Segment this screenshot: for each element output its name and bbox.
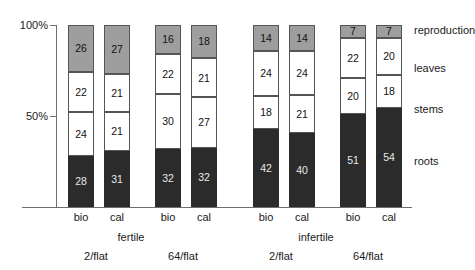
segment-leaves: 24 bbox=[289, 51, 315, 95]
x-tick-label-infertile-2flat-bio: bio bbox=[246, 211, 286, 223]
segment-leaves: 21 bbox=[104, 74, 130, 112]
segment-reproduction: 27 bbox=[104, 25, 130, 74]
x-tick-label-infertile-64flat-cal: cal bbox=[369, 211, 409, 223]
segment-stems: 21 bbox=[289, 95, 315, 134]
segment-reproduction: 18 bbox=[191, 25, 217, 58]
segment-roots: 42 bbox=[253, 129, 279, 207]
y-tick-label-100-wrap: 100% bbox=[0, 20, 48, 31]
bar-infertile-64flat-cal[interactable]: 7 20 18 54 bbox=[376, 25, 402, 207]
bar-fertile-2flat-cal[interactable]: 27 21 21 31 bbox=[104, 25, 130, 207]
y-tick-label-50-wrap: 50% bbox=[0, 111, 48, 122]
segment-leaves: 21 bbox=[191, 58, 217, 97]
x-tick-label-fertile-2flat-bio: bio bbox=[61, 211, 101, 223]
bar-infertile-2flat-cal[interactable]: 14 24 21 40 bbox=[289, 25, 315, 207]
legend-label-leaves: leaves bbox=[414, 62, 446, 74]
sub-label-infertile-64flat: 64/flat bbox=[328, 250, 408, 262]
segment-reproduction: 26 bbox=[68, 25, 94, 72]
segment-leaves: 22 bbox=[155, 54, 181, 94]
segment-reproduction: 14 bbox=[253, 25, 279, 51]
x-tick-label-fertile-64flat-cal: cal bbox=[184, 211, 224, 223]
x-axis-line bbox=[22, 207, 412, 208]
segment-roots: 40 bbox=[289, 133, 315, 207]
segment-reproduction: 14 bbox=[289, 25, 315, 51]
sub-label-infertile-2flat: 2/flat bbox=[241, 250, 321, 262]
bar-infertile-64flat-bio[interactable]: 7 22 20 51 bbox=[340, 25, 366, 207]
y-tick-label-50: 50% bbox=[2, 111, 48, 122]
y-tick-mark-50 bbox=[50, 116, 57, 117]
segment-stems: 21 bbox=[104, 112, 130, 150]
segment-stems: 24 bbox=[68, 112, 94, 156]
bar-fertile-64flat-cal[interactable]: 18 21 27 32 bbox=[191, 25, 217, 207]
segment-leaves: 22 bbox=[68, 72, 94, 112]
segment-leaves: 22 bbox=[340, 38, 366, 78]
segment-stems: 18 bbox=[253, 96, 279, 129]
segment-stems: 20 bbox=[340, 78, 366, 114]
x-tick-label-infertile-64flat-bio: bio bbox=[333, 211, 373, 223]
legend-label-stems: stems bbox=[414, 103, 443, 115]
x-tick-label-fertile-64flat-bio: bio bbox=[148, 211, 188, 223]
segment-leaves: 24 bbox=[253, 51, 279, 96]
segment-roots: 51 bbox=[340, 114, 366, 207]
segment-roots: 28 bbox=[68, 156, 94, 207]
segment-stems: 30 bbox=[155, 94, 181, 149]
group-label-infertile: infertile bbox=[261, 231, 371, 243]
segment-reproduction: 16 bbox=[155, 25, 181, 54]
bar-infertile-2flat-bio[interactable]: 14 24 18 42 bbox=[253, 25, 279, 207]
group-label-fertile: fertile bbox=[76, 231, 186, 243]
segment-leaves: 20 bbox=[376, 38, 402, 75]
bar-fertile-64flat-bio[interactable]: 16 22 30 32 bbox=[155, 25, 181, 207]
segment-reproduction: 7 bbox=[340, 25, 366, 38]
sub-label-fertile-64flat: 64/flat bbox=[143, 250, 223, 262]
y-tick-mark-100 bbox=[50, 25, 57, 26]
x-tick-label-fertile-2flat-cal: cal bbox=[97, 211, 137, 223]
legend-label-roots: roots bbox=[414, 155, 438, 167]
segment-roots: 31 bbox=[104, 151, 130, 207]
segment-stems: 18 bbox=[376, 75, 402, 108]
y-tick-label-100: 100% bbox=[2, 20, 48, 31]
sub-label-fertile-2flat: 2/flat bbox=[56, 250, 136, 262]
segment-reproduction: 7 bbox=[376, 25, 402, 38]
segment-roots: 54 bbox=[376, 108, 402, 207]
segment-roots: 32 bbox=[191, 148, 217, 207]
bar-fertile-2flat-bio[interactable]: 26 22 24 28 bbox=[68, 25, 94, 207]
segment-stems: 27 bbox=[191, 97, 217, 147]
x-tick-label-infertile-2flat-cal: cal bbox=[282, 211, 322, 223]
segment-roots: 32 bbox=[155, 149, 181, 207]
legend-label-reproduction: reproduction bbox=[414, 24, 475, 36]
